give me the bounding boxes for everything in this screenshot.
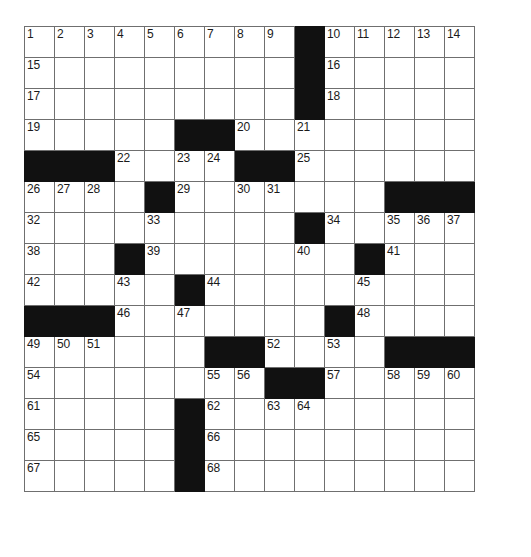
crossword-cell[interactable]: 25	[295, 151, 325, 182]
crossword-cell[interactable]	[355, 213, 385, 244]
crossword-cell[interactable]: 44	[205, 275, 235, 306]
crossword-cell[interactable]: 56	[235, 368, 265, 399]
crossword-cell[interactable]	[445, 430, 475, 461]
crossword-cell[interactable]	[115, 182, 145, 213]
crossword-cell[interactable]	[235, 399, 265, 430]
crossword-cell[interactable]	[265, 306, 295, 337]
crossword-cell[interactable]: 14	[445, 27, 475, 58]
crossword-cell[interactable]: 35	[385, 213, 415, 244]
crossword-cell[interactable]	[205, 213, 235, 244]
crossword-cell[interactable]	[325, 275, 355, 306]
crossword-cell[interactable]	[85, 58, 115, 89]
crossword-cell[interactable]: 16	[325, 58, 355, 89]
crossword-cell[interactable]: 49	[25, 337, 55, 368]
crossword-cell[interactable]: 2	[55, 27, 85, 58]
crossword-cell[interactable]: 12	[385, 27, 415, 58]
crossword-cell[interactable]	[145, 337, 175, 368]
crossword-cell[interactable]	[145, 399, 175, 430]
crossword-cell[interactable]	[145, 58, 175, 89]
crossword-cell[interactable]: 36	[415, 213, 445, 244]
crossword-cell[interactable]	[205, 58, 235, 89]
crossword-cell[interactable]	[385, 120, 415, 151]
crossword-cell[interactable]	[265, 58, 295, 89]
crossword-cell[interactable]: 28	[85, 182, 115, 213]
crossword-cell[interactable]	[415, 399, 445, 430]
crossword-cell[interactable]: 22	[115, 151, 145, 182]
crossword-cell[interactable]	[415, 58, 445, 89]
crossword-cell[interactable]: 24	[205, 151, 235, 182]
crossword-cell[interactable]	[355, 337, 385, 368]
crossword-cell[interactable]	[445, 244, 475, 275]
crossword-cell[interactable]	[115, 430, 145, 461]
crossword-cell[interactable]	[445, 89, 475, 120]
crossword-cell[interactable]	[445, 306, 475, 337]
crossword-cell[interactable]	[115, 89, 145, 120]
crossword-cell[interactable]: 51	[85, 337, 115, 368]
crossword-cell[interactable]: 65	[25, 430, 55, 461]
crossword-cell[interactable]: 57	[325, 368, 355, 399]
crossword-cell[interactable]: 29	[175, 182, 205, 213]
crossword-cell[interactable]	[295, 275, 325, 306]
crossword-cell[interactable]	[115, 399, 145, 430]
crossword-cell[interactable]: 27	[55, 182, 85, 213]
crossword-cell[interactable]	[295, 182, 325, 213]
crossword-cell[interactable]	[295, 430, 325, 461]
crossword-cell[interactable]	[385, 399, 415, 430]
crossword-cell[interactable]	[115, 461, 145, 492]
crossword-cell[interactable]: 39	[145, 244, 175, 275]
crossword-cell[interactable]	[325, 120, 355, 151]
crossword-cell[interactable]	[235, 430, 265, 461]
crossword-cell[interactable]: 9	[265, 27, 295, 58]
crossword-cell[interactable]	[445, 58, 475, 89]
crossword-cell[interactable]	[355, 120, 385, 151]
crossword-cell[interactable]	[295, 306, 325, 337]
crossword-cell[interactable]	[355, 368, 385, 399]
crossword-cell[interactable]	[415, 244, 445, 275]
crossword-cell[interactable]	[85, 399, 115, 430]
crossword-cell[interactable]: 66	[205, 430, 235, 461]
crossword-cell[interactable]	[175, 337, 205, 368]
crossword-cell[interactable]	[265, 120, 295, 151]
crossword-cell[interactable]	[265, 275, 295, 306]
crossword-cell[interactable]	[415, 151, 445, 182]
crossword-grid[interactable]: 1234567891011121314151617181920212223242…	[24, 26, 475, 492]
crossword-cell[interactable]: 11	[355, 27, 385, 58]
crossword-cell[interactable]	[205, 182, 235, 213]
crossword-cell[interactable]: 23	[175, 151, 205, 182]
crossword-cell[interactable]: 21	[295, 120, 325, 151]
crossword-cell[interactable]: 15	[25, 58, 55, 89]
crossword-cell[interactable]	[175, 213, 205, 244]
crossword-cell[interactable]	[55, 213, 85, 244]
crossword-cell[interactable]	[55, 430, 85, 461]
crossword-cell[interactable]	[175, 58, 205, 89]
crossword-cell[interactable]	[355, 89, 385, 120]
crossword-cell[interactable]	[415, 461, 445, 492]
crossword-cell[interactable]: 19	[25, 120, 55, 151]
crossword-cell[interactable]	[55, 461, 85, 492]
crossword-cell[interactable]: 68	[205, 461, 235, 492]
crossword-cell[interactable]: 32	[25, 213, 55, 244]
crossword-cell[interactable]: 17	[25, 89, 55, 120]
crossword-cell[interactable]	[265, 430, 295, 461]
crossword-cell[interactable]: 58	[385, 368, 415, 399]
crossword-cell[interactable]: 34	[325, 213, 355, 244]
crossword-cell[interactable]	[115, 368, 145, 399]
crossword-cell[interactable]	[175, 244, 205, 275]
crossword-cell[interactable]: 33	[145, 213, 175, 244]
crossword-cell[interactable]: 50	[55, 337, 85, 368]
crossword-cell[interactable]	[55, 368, 85, 399]
crossword-cell[interactable]	[85, 430, 115, 461]
crossword-cell[interactable]	[445, 120, 475, 151]
crossword-cell[interactable]: 6	[175, 27, 205, 58]
crossword-cell[interactable]	[55, 244, 85, 275]
crossword-cell[interactable]: 13	[415, 27, 445, 58]
crossword-cell[interactable]: 67	[25, 461, 55, 492]
crossword-cell[interactable]	[85, 275, 115, 306]
crossword-cell[interactable]	[175, 368, 205, 399]
crossword-cell[interactable]	[235, 58, 265, 89]
crossword-cell[interactable]: 4	[115, 27, 145, 58]
crossword-cell[interactable]	[115, 120, 145, 151]
crossword-cell[interactable]	[355, 461, 385, 492]
crossword-cell[interactable]	[415, 275, 445, 306]
crossword-cell[interactable]	[115, 337, 145, 368]
